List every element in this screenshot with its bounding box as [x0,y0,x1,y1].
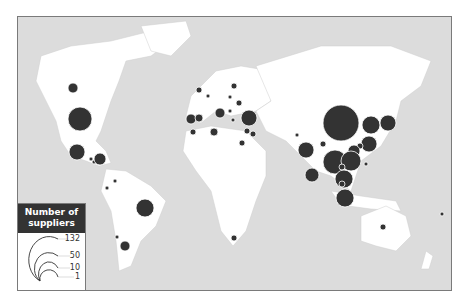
supplier-bubble [195,114,203,122]
supplier-bubble [228,95,232,99]
legend-value-1: 1 [75,273,80,281]
supplier-bubble [231,83,237,89]
supplier-bubble [239,140,245,146]
supplier-bubble [186,114,196,124]
supplier-bubble [94,153,106,165]
supplier-bubble [361,136,377,152]
supplier-bubble [115,235,119,239]
supplier-bubble [231,235,237,241]
supplier-bubble [113,179,117,183]
supplier-bubble [231,118,235,122]
legend-title-line2: suppliers [18,218,85,229]
legend-value-50: 50 [70,252,80,260]
supplier-bubble [364,162,368,166]
supplier-bubble [196,87,202,93]
supplier-bubble [339,164,345,170]
legend-value-10: 10 [70,264,80,272]
supplier-bubble [305,168,319,182]
supplier-bubble [236,100,242,106]
legend-scale: 132 50 10 1 [18,233,85,291]
legend-title: Number of suppliers [18,204,85,233]
supplier-bubble [298,142,314,158]
supplier-bubble [69,144,85,160]
supplier-bubble [336,189,354,207]
supplier-bubble [120,241,130,251]
supplier-bubble [206,94,210,98]
supplier-bubble [339,181,345,187]
supplier-bubble [380,224,386,230]
supplier-bubble [250,131,256,137]
supplier-bubble [228,109,232,113]
supplier-bubble [362,116,380,134]
supplier-bubble [295,133,299,137]
supplier-bubble [244,128,250,134]
supplier-bubble [105,186,109,190]
supplier-bubble [380,115,396,131]
supplier-bubble [241,110,257,126]
supplier-bubble [136,199,154,217]
legend-value-132: 132 [65,235,80,243]
supplier-bubble [323,105,359,141]
legend-title-line1: Number of [18,207,85,218]
supplier-bubble [440,212,444,216]
legend: Number of suppliers 132 50 10 1 [17,203,86,291]
supplier-bubble [68,83,78,93]
supplier-bubble [190,129,196,135]
supplier-bubble [320,141,326,147]
supplier-bubble [215,108,225,118]
supplier-bubble [68,107,92,131]
supplier-bubble [210,128,218,136]
